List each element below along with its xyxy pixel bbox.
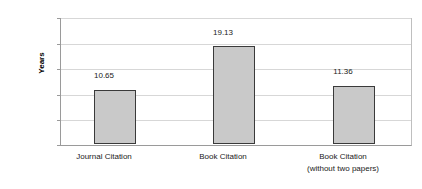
bar-journal-citation[interactable] (94, 90, 136, 145)
bar-book-citation-without-two-papers[interactable] (333, 86, 375, 144)
category-label-line-2: (without two papers) (288, 164, 398, 174)
bar-chart: Years 25 20 15 10 5 0 10.65 19.13 11.36 … (0, 0, 422, 189)
plot-area (60, 18, 412, 146)
y-tick-mark-20 (57, 44, 61, 45)
gridline-25 (61, 18, 411, 19)
category-label-line-1: Book Citation (288, 152, 398, 162)
category-label-journal-citation: Journal Citation (54, 152, 154, 162)
y-tick-mark-15 (57, 69, 61, 70)
category-label-book-citation: Book Citation (173, 152, 273, 162)
y-tick-mark-25 (57, 18, 61, 19)
gridline-20 (61, 44, 411, 45)
bar-value-journal-citation: 10.65 (72, 71, 136, 80)
y-axis-title: Years (37, 33, 51, 93)
bar-value-book-citation-without-two-papers: 11.36 (311, 67, 375, 76)
bar-book-citation[interactable] (213, 46, 255, 144)
y-tick-mark-5 (57, 120, 61, 121)
y-tick-mark-10 (57, 95, 61, 96)
bar-value-book-citation: 19.13 (191, 28, 255, 37)
y-tick-mark-0 (57, 145, 61, 146)
